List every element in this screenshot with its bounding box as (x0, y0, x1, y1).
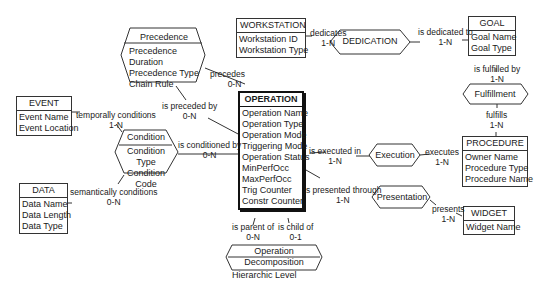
role-name: is preceded by (162, 101, 217, 111)
role-name: is conditioned by (178, 140, 241, 150)
cardinality: 1-N (418, 37, 473, 47)
relationship-title: Operation Decomposition (226, 246, 322, 270)
entity-attribute: Owner Name (465, 152, 525, 163)
entity-title: OPERATION (240, 93, 302, 107)
relationship-execution: Execution (370, 150, 420, 161)
cardinality: 1-N (304, 195, 382, 205)
cardinality: 0-N (178, 150, 241, 160)
role-is-presented-through: is presented through 1-N (304, 185, 382, 205)
entity-attribute: Trig Counter (242, 185, 300, 196)
entity-title: WIDGET (464, 207, 514, 221)
relationship-fulfillment: Fulfillment (466, 89, 524, 100)
entity-attribute: Operation Mode (242, 130, 300, 141)
entity-attribute: MaxPerfOcc (242, 174, 300, 185)
entity-attribute: Operation Type (242, 119, 300, 130)
entity-attribute: Data Length (22, 210, 65, 221)
role-name: executes (425, 147, 459, 157)
entity-attribute: Operation Status (242, 152, 300, 163)
relationship-attribute: Hierarchic Level (226, 270, 322, 281)
entity-attribute: Workstation ID (239, 34, 303, 45)
entity-attribute: Workstation Type (239, 45, 303, 56)
role-name: is child of (278, 222, 313, 232)
cardinality: 1-N (486, 120, 507, 130)
role-name: precedes (210, 69, 245, 79)
role-is-preceded-by: is preceded by 0-N (162, 101, 217, 121)
entity-title: DATA (20, 184, 67, 198)
entity-title: WORKSTATION (237, 19, 305, 33)
entity-attribute: Procedure Type (465, 163, 525, 174)
role-is-child-of: is child of 0-1 (278, 222, 313, 242)
entity-title: EVENT (17, 97, 71, 111)
entity-event: EVENT Event Name Event Location (16, 96, 72, 136)
role-name: temporally conditions (76, 110, 156, 120)
relationship-title: Precedence (124, 30, 204, 44)
role-is-parent-of: is parent of 0-N (232, 222, 274, 242)
entity-attribute: Widget Name (466, 222, 512, 233)
entity-attribute: Data Name (22, 199, 65, 210)
role-name: is dedicated to (418, 27, 473, 37)
cardinality: 0-N (232, 232, 274, 242)
role-fulfills: fulfills 1-N (486, 110, 507, 130)
entity-widget: WIDGET Widget Name (463, 206, 515, 235)
entity-title: PROCEDURE (463, 137, 527, 151)
role-name: is fulfilled by (474, 64, 520, 74)
entity-attribute: Event Location (19, 123, 69, 134)
relationship-title: Presentation (374, 192, 430, 203)
entity-attribute: Goal Name (471, 32, 513, 43)
relationship-decomposition: Operation Decomposition Hierarchic Level (226, 246, 322, 281)
relationship-attribute: Chain Rule (129, 79, 204, 90)
role-name: is executed in (309, 146, 361, 156)
relationship-condition: Condition Condition Type Condition Code (118, 132, 174, 190)
cardinality: 0-N (70, 197, 157, 207)
entity-title: GOAL (469, 17, 515, 31)
er-diagram: Precedence Precedence Duration Precedenc… (0, 0, 540, 286)
entity-attribute: Triggering Mode (242, 141, 300, 152)
relationship-precedence: Precedence Precedence Duration Precedenc… (124, 30, 204, 90)
role-name: fulfills (486, 110, 507, 120)
cardinality: 0-N (210, 79, 245, 89)
entity-attribute: Procedure Name (465, 174, 525, 185)
relationship-attribute: Precedence Type (129, 68, 204, 79)
relationship-presentation: Presentation (374, 192, 430, 203)
role-precedes: precedes 0-N (210, 69, 245, 89)
role-name: presents (432, 204, 465, 214)
role-presents: presents 1-N (432, 204, 465, 224)
entity-data: DATA Data Name Data Length Data Type (19, 183, 68, 234)
entity-operation: OPERATION Operation Name Operation Type … (238, 91, 304, 210)
cardinality: 0-N (162, 111, 217, 121)
cardinality: 0-1 (278, 232, 313, 242)
role-temporally-conditions: temporally conditions 1-N (76, 110, 156, 130)
entity-procedure: PROCEDURE Owner Name Procedure Type Proc… (462, 136, 528, 187)
role-is-fulfilled-by: is fulfilled by 1-N (474, 64, 520, 84)
role-name: dedicates (310, 28, 346, 38)
entity-workstation: WORKSTATION Workstation ID Workstation T… (236, 18, 306, 58)
cardinality: 1-N (425, 157, 459, 167)
role-dedicates: dedicates 1-N (310, 28, 346, 48)
cardinality: 1-N (76, 120, 156, 130)
entity-attribute: Goal Type (471, 43, 513, 54)
role-is-conditioned-by: is conditioned by 0-N (178, 140, 241, 160)
role-name: semantically conditions (70, 187, 157, 197)
relationship-attribute: Precedence Duration (129, 46, 204, 68)
entity-attribute: Operation Name (242, 108, 300, 119)
relationship-attribute: Condition Type (118, 146, 174, 168)
role-semantically-conditions: semantically conditions 0-N (70, 187, 157, 207)
relationship-title: Condition (118, 132, 174, 146)
cardinality: 1-N (432, 214, 465, 224)
role-name: is presented through (304, 185, 382, 195)
cardinality: 1-N (474, 74, 520, 84)
role-name: is parent of (232, 222, 274, 232)
entity-attribute: Constr Counter (242, 196, 300, 207)
entity-attribute: Data Type (22, 221, 65, 232)
entity-attribute: MinPerfOcc (242, 163, 300, 174)
cardinality: 1-N (309, 156, 361, 166)
cardinality: 1-N (310, 38, 346, 48)
entity-goal: GOAL Goal Name Goal Type (468, 16, 516, 56)
entity-attribute: Event Name (19, 112, 69, 123)
relationship-title: Fulfillment (466, 89, 524, 100)
role-is-executed-in: is executed in 1-N (309, 146, 361, 166)
role-executes: executes 1-N (425, 147, 459, 167)
role-is-dedicated-to: is dedicated to 1-N (418, 27, 473, 47)
relationship-title: Execution (370, 150, 420, 161)
